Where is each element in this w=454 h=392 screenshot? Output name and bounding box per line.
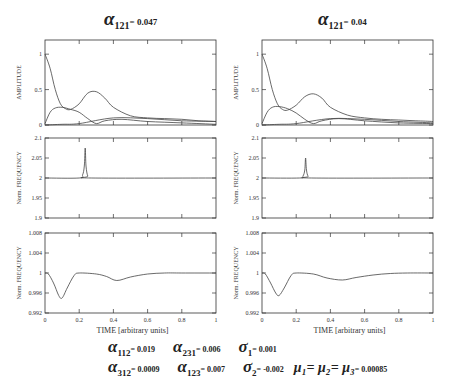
param-alpha123: α123= 0.007 — [177, 357, 224, 378]
x-tick-label: 0.6 — [144, 317, 152, 323]
parameters-row-1: α112= 0.019 α231= 0.006 σ1= 0.001 — [108, 337, 405, 357]
left-amplitude-plot: 00.51AMPLITUDE — [16, 40, 216, 128]
y-tick-label: 2.05 — [32, 155, 43, 161]
param-sigma2: σ2= -0.002 — [243, 357, 284, 378]
y-tick-label: 1.9 — [252, 215, 260, 221]
plots-canvas: 00.51AMPLITUDE1.91.9522.052.1Norm. FREQU… — [0, 0, 454, 392]
y-tick-label: 1 — [256, 270, 259, 276]
right-frequency-plot: 1.91.9522.052.1Norm. FREQUENCY — [233, 135, 433, 221]
param-sigma1: σ1= 0.001 — [238, 337, 276, 358]
y-tick-label: 2.05 — [249, 155, 260, 161]
parameters-row-2: α312= 0.0009 α123= 0.007 σ2= -0.002 μ₁= … — [108, 357, 405, 377]
x-tick-label: 0.2 — [75, 317, 83, 323]
plot-frame — [45, 40, 216, 125]
y-axis-label: Norm. FREQUENCY — [233, 246, 239, 300]
y-tick-label: 0.992 — [29, 310, 43, 316]
mode-3-line — [45, 118, 216, 125]
x-tick-label: 0.2 — [292, 317, 300, 323]
left-frequency-detail-plot: 0.9920.99611.0041.00800.20.40.60.81Norm.… — [16, 230, 218, 335]
param-mu: μ₁= μ₂= μ₃= 0.00085 — [294, 358, 388, 376]
y-tick-label: 0.5 — [252, 87, 260, 93]
frequency-line — [45, 148, 216, 178]
y-axis-label: Norm. FREQUENCY — [233, 151, 239, 205]
y-tick-label: 1.004 — [246, 250, 260, 256]
y-tick-label: 1.95 — [32, 195, 43, 201]
frequency-line — [262, 273, 433, 296]
x-tick-label: 1 — [432, 317, 435, 323]
x-tick-label: 0 — [44, 317, 47, 323]
plot-frame — [262, 40, 433, 125]
x-tick-label: 0.4 — [327, 317, 335, 323]
mode-1-line — [262, 54, 433, 121]
y-axis-label: AMPLITUDE — [16, 65, 22, 100]
x-tick-label: 0 — [261, 317, 264, 323]
y-tick-label: 0.996 — [29, 290, 43, 296]
y-tick-label: 1.008 — [246, 230, 260, 236]
y-axis-label: AMPLITUDE — [233, 65, 239, 100]
frequency-line — [45, 273, 216, 299]
param-alpha112: α112= 0.019 — [108, 337, 155, 358]
y-tick-label: 1.95 — [249, 195, 260, 201]
param-alpha312: α312= 0.0009 — [108, 357, 159, 378]
x-tick-label: 0.4 — [110, 317, 118, 323]
parameters-block: α112= 0.019 α231= 0.006 σ1= 0.001 α312= … — [108, 337, 405, 377]
y-tick-label: 0.996 — [246, 290, 260, 296]
x-tick-label: 1 — [215, 317, 218, 323]
frequency-line — [262, 158, 433, 178]
x-tick-label: 0.8 — [395, 317, 403, 323]
y-tick-label: 1.008 — [29, 230, 43, 236]
y-tick-label: 2.1 — [252, 135, 260, 141]
y-tick-label: 0.5 — [35, 87, 43, 93]
right-frequency-detail-plot: 0.9920.99611.0041.00800.20.40.60.81Norm.… — [233, 230, 435, 335]
right-amplitude-plot: 00.51AMPLITUDE — [233, 40, 433, 128]
y-tick-label: 1 — [39, 51, 42, 57]
y-tick-label: 1.004 — [29, 250, 43, 256]
y-tick-label: 2 — [39, 175, 42, 181]
y-tick-label: 1 — [39, 270, 42, 276]
x-tick-label: 0.6 — [361, 317, 369, 323]
y-tick-label: 0.992 — [246, 310, 260, 316]
y-tick-label: 0 — [39, 122, 42, 128]
left-frequency-plot: 1.91.9522.052.1Norm. FREQUENCY — [16, 135, 216, 221]
x-axis-label: TIME [arbitrary units] — [314, 326, 386, 335]
y-axis-label: Norm. FREQUENCY — [16, 151, 22, 205]
y-tick-label: 1.9 — [35, 215, 43, 221]
param-alpha231: α231= 0.006 — [173, 337, 220, 358]
y-tick-label: 0 — [256, 122, 259, 128]
x-tick-label: 0.8 — [178, 317, 186, 323]
y-axis-label: Norm. FREQUENCY — [16, 246, 22, 300]
x-axis-label: TIME [arbitrary units] — [97, 326, 169, 335]
y-tick-label: 1 — [256, 51, 259, 57]
y-tick-label: 2.1 — [35, 135, 43, 141]
y-tick-label: 2 — [256, 175, 259, 181]
mode-1-line — [45, 54, 216, 121]
